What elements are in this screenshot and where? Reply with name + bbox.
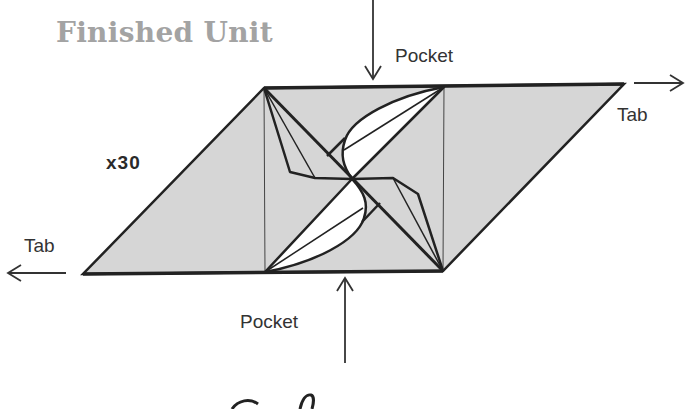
finished-unit-diagram bbox=[0, 0, 692, 409]
tab-arrow-right bbox=[634, 75, 683, 91]
pocket-label-bottom: Pocket bbox=[240, 311, 298, 333]
decorative-cutoff-strokes bbox=[232, 395, 313, 409]
pocket-arrow-top bbox=[365, 0, 381, 79]
tab-arrow-left bbox=[8, 265, 66, 281]
unit-count-label: x30 bbox=[106, 152, 141, 174]
page-title: Finished Unit bbox=[56, 16, 273, 49]
pocket-arrow-bottom bbox=[337, 278, 353, 363]
tab-label-left: Tab bbox=[24, 235, 55, 257]
tab-label-right: Tab bbox=[617, 104, 648, 126]
pocket-label-top: Pocket bbox=[395, 45, 453, 67]
